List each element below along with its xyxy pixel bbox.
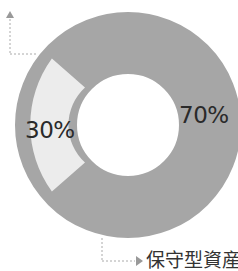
top-connector (6, 11, 38, 54)
right-arrow-icon (136, 256, 143, 266)
light-segment-value-label: 30% (25, 119, 75, 142)
bottom-connector (102, 238, 143, 266)
up-arrow-icon (6, 11, 14, 18)
conservative-assets-label: 保守型資産 (146, 251, 238, 270)
dark-segment-value-label: 70% (179, 104, 229, 127)
